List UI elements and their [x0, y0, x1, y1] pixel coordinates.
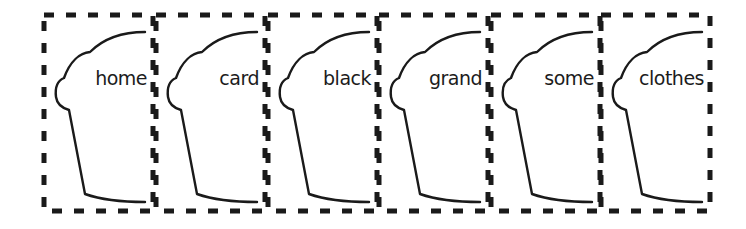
muffin-outline-icon [154, 13, 267, 213]
word-card-grand[interactable]: grand [377, 13, 490, 213]
muffin-outline-icon [42, 13, 155, 213]
word-card-clothes[interactable]: clothes [599, 13, 712, 213]
word-card-black[interactable]: black [266, 13, 379, 213]
card-word: home [95, 67, 147, 89]
muffin-outline-icon [489, 13, 602, 213]
card-word: clothes [639, 67, 704, 89]
card-word: card [219, 67, 259, 89]
muffin-outline-icon [266, 13, 379, 213]
muffin-outline-icon [377, 13, 490, 213]
card-word: grand [429, 67, 482, 89]
word-card-some[interactable]: some [489, 13, 602, 213]
card-word: black [323, 67, 371, 89]
card-word: some [544, 67, 594, 89]
muffin-outline-icon [599, 13, 712, 213]
word-card-home[interactable]: home [42, 13, 155, 213]
word-card-card[interactable]: card [154, 13, 267, 213]
